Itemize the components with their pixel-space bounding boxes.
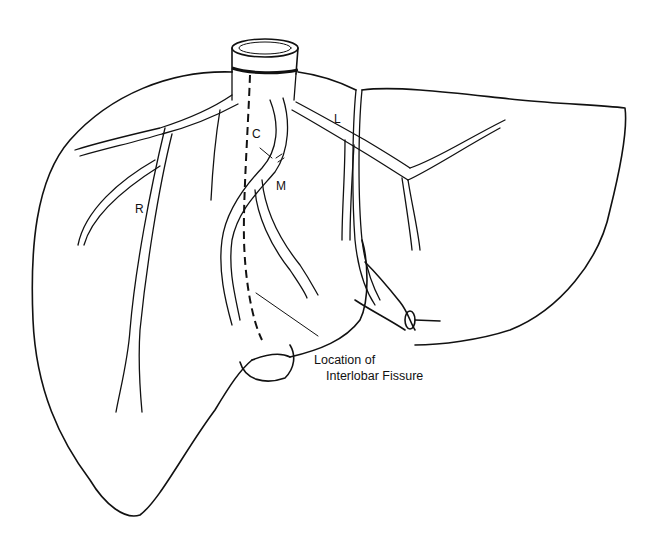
fissure-pointer-line [256,293,318,336]
middle-hepatic-vein [221,98,318,325]
label-l: L [334,112,341,126]
liver-outline [32,72,625,516]
label-c: C [252,127,261,141]
label-r: R [135,202,144,216]
right-hepatic-vein [75,95,238,412]
liver-diagram: R M L C Location of Interlobar Fissure [0,0,649,542]
left-hepatic-vein [292,102,505,250]
ligamentum-teres [355,262,440,330]
interlobar-fissure-line [244,75,262,340]
label-m: M [276,179,286,193]
annotation-line-2: Interlobar Fissure [326,369,423,383]
ivc [232,39,298,100]
annotation-line-1: Location of [314,353,376,367]
